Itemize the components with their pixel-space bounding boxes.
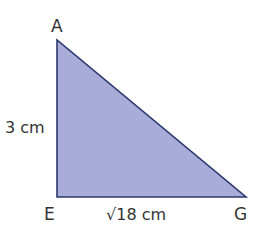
vertex-label-e: E: [44, 204, 55, 224]
vertex-label-a: A: [51, 16, 63, 36]
triangle-diagram: A E G 3 cm √18 cm: [0, 0, 262, 231]
vertex-label-g: G: [234, 204, 247, 224]
side-label-ae: 3 cm: [5, 118, 45, 137]
side-label-eg: √18 cm: [106, 205, 166, 224]
triangle-AEG: [57, 40, 246, 197]
